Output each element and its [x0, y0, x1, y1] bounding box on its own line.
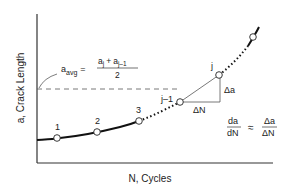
svg-text:da: da — [228, 116, 238, 126]
delta-n-label: ΔN — [193, 105, 206, 115]
label-2: 2 — [95, 116, 100, 126]
label-j: j — [210, 61, 213, 71]
data-point-j — [216, 72, 223, 79]
svg-text:ΔN: ΔN — [262, 128, 275, 138]
svg-text:2: 2 — [115, 70, 120, 80]
data-point-1 — [54, 135, 61, 142]
curve-solid-lower — [37, 121, 139, 140]
y-axis-label: a, Crack Length — [15, 53, 26, 124]
svg-text:aj+aj–1: aj+aj–1 — [98, 56, 127, 68]
svg-text:Δa: Δa — [264, 116, 275, 126]
data-point-j-minus-1 — [177, 99, 184, 106]
label-1: 1 — [55, 122, 60, 132]
data-point-3 — [136, 118, 143, 125]
svg-text:aavg=: aavg= — [61, 64, 86, 77]
label-3: 3 — [136, 105, 141, 115]
data-point-top — [250, 34, 257, 41]
avg-formula: aavg= aj+aj–1 2 — [61, 56, 138, 80]
svg-text:dN: dN — [227, 128, 239, 138]
delta-a-label: Δa — [224, 85, 235, 95]
curve-dotted-1 — [139, 102, 180, 121]
svg-text:≈: ≈ — [248, 122, 254, 133]
curve-dotted-2 — [219, 46, 248, 75]
crack-growth-diagram: N, Cycles a, Crack Length aavg= aj+aj–1 … — [0, 0, 294, 191]
label-j-minus-1: j–1 — [160, 94, 173, 104]
secant-line — [180, 75, 219, 102]
leader-line — [39, 74, 57, 88]
x-axis-label: N, Cycles — [129, 173, 172, 184]
data-point-2 — [94, 129, 101, 136]
rate-formula: da dN ≈ Δa ΔN — [227, 116, 277, 138]
